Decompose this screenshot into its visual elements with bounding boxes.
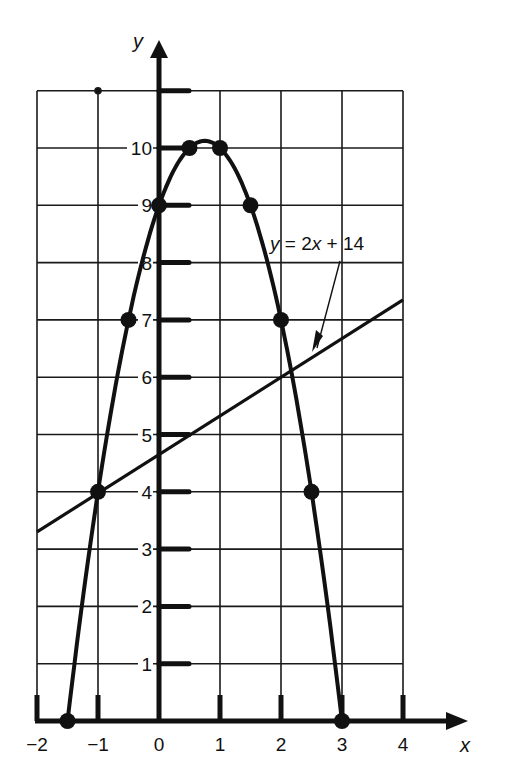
x-tick-label: 0 <box>154 734 165 755</box>
x-tick-label: −1 <box>87 734 109 755</box>
x-tick-label: −2 <box>26 734 48 755</box>
x-tick-label: 2 <box>276 734 287 755</box>
parabola-curve <box>68 141 343 721</box>
data-point-marker <box>151 197 167 213</box>
annotation-label: y = 2x + 14 <box>268 233 364 254</box>
x-axis-label: x <box>459 734 471 756</box>
y-tick-label: 9 <box>141 195 152 216</box>
chart: −2−10123412345678910 y = 2x + 14 x y <box>0 0 509 783</box>
data-point-marker <box>334 713 350 729</box>
x-tick-label: 3 <box>337 734 348 755</box>
grid <box>37 88 403 721</box>
grid-dot <box>95 88 101 94</box>
y-tick-label: 3 <box>141 539 152 560</box>
y-tick-label: 1 <box>141 654 152 675</box>
y-axis-label: y <box>131 30 144 52</box>
data-point-marker <box>304 484 320 500</box>
tick-labels: −2−10123412345678910 <box>26 137 409 755</box>
data-point-marker <box>90 484 106 500</box>
data-point-marker <box>273 312 289 328</box>
y-tick-label: 5 <box>141 425 152 446</box>
y-tick-label: 2 <box>141 596 152 617</box>
data-point-marker <box>212 140 228 156</box>
data-point-marker <box>60 713 76 729</box>
y-tick-label: 7 <box>141 310 152 331</box>
y-tick-label: 6 <box>141 367 152 388</box>
y-tick-label: 10 <box>131 138 152 159</box>
x-tick-label: 1 <box>215 734 226 755</box>
y-axis-arrow-icon <box>150 40 168 58</box>
x-axis-arrow-icon <box>446 712 468 730</box>
x-tick-label: 4 <box>398 734 409 755</box>
data-point-marker <box>121 312 137 328</box>
y-tick-label: 4 <box>141 482 152 503</box>
data-point-marker <box>182 140 198 156</box>
data-point-marker <box>243 197 259 213</box>
